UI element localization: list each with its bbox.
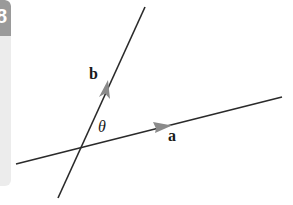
line-a xyxy=(16,97,282,164)
line-b xyxy=(58,7,145,198)
angle-theta-label: θ xyxy=(98,119,106,135)
vector-diagram xyxy=(0,0,293,205)
vector-b-label: b xyxy=(89,66,98,82)
vector-a-label: a xyxy=(168,128,176,144)
